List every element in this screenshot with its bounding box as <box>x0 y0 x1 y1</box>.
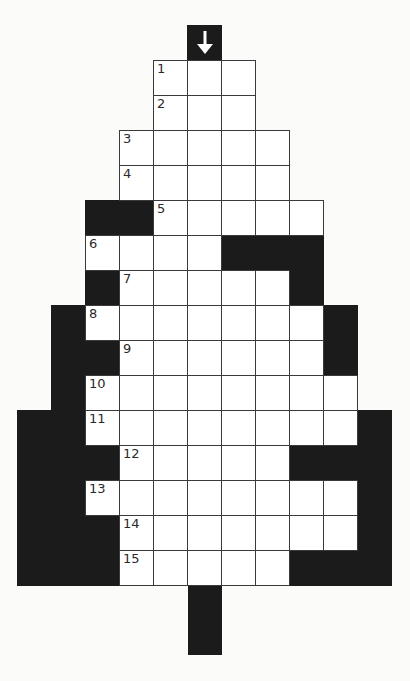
letter-cell[interactable] <box>187 130 222 166</box>
letter-cell[interactable] <box>119 305 154 341</box>
letter-cell[interactable] <box>153 480 188 516</box>
letter-cell[interactable] <box>153 165 188 201</box>
letter-cell[interactable] <box>289 375 324 411</box>
letter-cell[interactable] <box>221 305 256 341</box>
letter-cell[interactable]: 7 <box>119 270 154 306</box>
letter-cell[interactable] <box>255 480 290 516</box>
letter-cell[interactable] <box>187 60 222 96</box>
letter-cell[interactable] <box>187 550 222 586</box>
letter-cell[interactable] <box>187 375 222 411</box>
letter-cell[interactable] <box>221 60 256 96</box>
letter-cell[interactable] <box>255 410 290 446</box>
clue-number: 13 <box>89 482 106 495</box>
letter-cell[interactable] <box>119 410 154 446</box>
letter-cell[interactable] <box>289 515 324 551</box>
letter-cell[interactable] <box>153 550 188 586</box>
letter-cell[interactable] <box>221 200 256 236</box>
letter-cell[interactable] <box>187 95 222 131</box>
letter-cell[interactable] <box>255 340 290 376</box>
letter-cell[interactable] <box>187 235 222 271</box>
letter-cell[interactable] <box>153 340 188 376</box>
letter-cell[interactable] <box>119 480 154 516</box>
block-cell <box>85 445 120 481</box>
letter-cell[interactable] <box>289 340 324 376</box>
letter-cell[interactable] <box>153 130 188 166</box>
letter-cell[interactable]: 12 <box>119 445 154 481</box>
block-cell <box>17 480 52 516</box>
letter-cell[interactable] <box>255 515 290 551</box>
crossword-tree-board: 123456789101112131415 <box>0 0 410 681</box>
clue-number: 12 <box>123 447 140 460</box>
letter-cell[interactable]: 9 <box>119 340 154 376</box>
letter-cell[interactable]: 2 <box>153 95 188 131</box>
letter-cell[interactable] <box>187 410 222 446</box>
letter-cell[interactable] <box>187 165 222 201</box>
letter-cell[interactable]: 14 <box>119 515 154 551</box>
letter-cell[interactable] <box>221 165 256 201</box>
clue-number: 9 <box>123 342 131 355</box>
letter-cell[interactable]: 8 <box>85 305 120 341</box>
letter-cell[interactable] <box>255 165 290 201</box>
clue-number: 4 <box>123 167 131 180</box>
letter-cell[interactable] <box>153 445 188 481</box>
letter-cell[interactable] <box>153 305 188 341</box>
arrow-down-icon <box>195 30 215 56</box>
block-cell <box>51 515 86 551</box>
letter-cell[interactable] <box>221 130 256 166</box>
letter-cell[interactable] <box>255 375 290 411</box>
letter-cell[interactable] <box>221 480 256 516</box>
letter-cell[interactable] <box>221 270 256 306</box>
letter-cell[interactable]: 13 <box>85 480 120 516</box>
letter-cell[interactable] <box>119 235 154 271</box>
letter-cell[interactable] <box>323 515 358 551</box>
letter-cell[interactable] <box>153 270 188 306</box>
letter-cell[interactable] <box>255 445 290 481</box>
letter-cell[interactable] <box>221 410 256 446</box>
clue-number: 5 <box>157 202 165 215</box>
letter-cell[interactable] <box>187 445 222 481</box>
letter-cell[interactable] <box>323 410 358 446</box>
letter-cell[interactable] <box>221 550 256 586</box>
letter-cell[interactable]: 1 <box>153 60 188 96</box>
letter-cell[interactable]: 6 <box>85 235 120 271</box>
letter-cell[interactable] <box>221 515 256 551</box>
block-cell <box>17 410 52 446</box>
letter-cell[interactable] <box>289 305 324 341</box>
letter-cell[interactable] <box>187 305 222 341</box>
letter-cell[interactable] <box>255 270 290 306</box>
block-cell <box>51 480 86 516</box>
letter-cell[interactable] <box>289 480 324 516</box>
block-cell <box>289 445 324 481</box>
letter-cell[interactable] <box>187 200 222 236</box>
letter-cell[interactable] <box>187 480 222 516</box>
letter-cell[interactable] <box>323 375 358 411</box>
letter-cell[interactable]: 10 <box>85 375 120 411</box>
letter-cell[interactable] <box>255 200 290 236</box>
block-cell <box>323 305 358 341</box>
letter-cell[interactable] <box>153 235 188 271</box>
letter-cell[interactable] <box>153 375 188 411</box>
letter-cell[interactable] <box>221 95 256 131</box>
letter-cell[interactable] <box>221 340 256 376</box>
letter-cell[interactable]: 11 <box>85 410 120 446</box>
letter-cell[interactable]: 15 <box>119 550 154 586</box>
letter-cell[interactable] <box>153 410 188 446</box>
letter-cell[interactable]: 5 <box>153 200 188 236</box>
letter-cell[interactable] <box>289 410 324 446</box>
letter-cell[interactable] <box>187 340 222 376</box>
letter-cell[interactable] <box>153 515 188 551</box>
letter-cell[interactable] <box>187 270 222 306</box>
letter-cell[interactable] <box>255 305 290 341</box>
letter-cell[interactable] <box>119 375 154 411</box>
letter-cell[interactable] <box>255 550 290 586</box>
block-cell <box>357 480 392 516</box>
letter-cell[interactable] <box>221 445 256 481</box>
letter-cell[interactable]: 4 <box>119 165 154 201</box>
letter-cell[interactable] <box>323 480 358 516</box>
letter-cell[interactable] <box>187 515 222 551</box>
letter-cell[interactable] <box>221 375 256 411</box>
letter-cell[interactable]: 3 <box>119 130 154 166</box>
block-cell <box>323 550 358 586</box>
letter-cell[interactable] <box>255 130 290 166</box>
letter-cell[interactable] <box>289 200 324 236</box>
